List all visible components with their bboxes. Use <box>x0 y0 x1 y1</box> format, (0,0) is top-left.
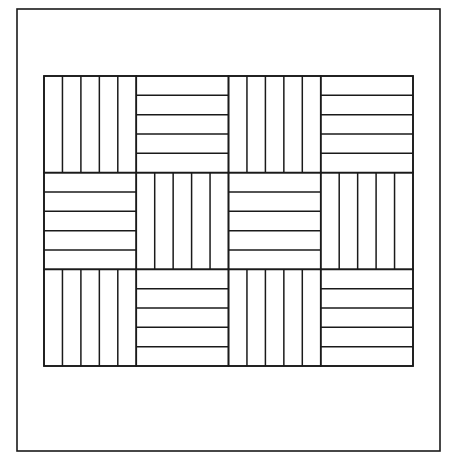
tile-3-2 <box>136 269 228 366</box>
tile-1-2 <box>136 76 228 173</box>
tile-border <box>136 76 228 173</box>
tile-border <box>44 269 136 366</box>
tile-1-4 <box>321 76 413 173</box>
basket-weave-pattern-diagram <box>0 0 452 467</box>
tile-3-1 <box>44 269 136 366</box>
tile-2-1 <box>44 173 136 270</box>
tile-grid <box>44 76 413 366</box>
tile-3-3 <box>229 269 321 366</box>
tile-border <box>44 173 136 270</box>
tile-2-2 <box>136 173 228 270</box>
tile-border <box>229 269 321 366</box>
tile-border <box>136 269 228 366</box>
tile-2-3 <box>229 173 321 270</box>
tile-border <box>321 269 413 366</box>
tile-border <box>136 173 228 270</box>
tile-1-1 <box>44 76 136 173</box>
tile-1-3 <box>229 76 321 173</box>
tile-border <box>229 173 321 270</box>
tile-border <box>229 76 321 173</box>
tile-border <box>321 76 413 173</box>
tile-border <box>44 76 136 173</box>
tile-3-4 <box>321 269 413 366</box>
tile-border <box>321 173 413 270</box>
tile-2-4 <box>321 173 413 270</box>
